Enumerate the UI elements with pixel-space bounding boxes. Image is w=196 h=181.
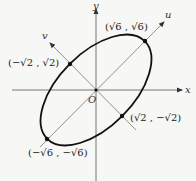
point-label-p3: (√2 , −√2): [130, 113, 181, 123]
point-dot-p1: [143, 39, 147, 43]
origin-dot: [94, 88, 97, 91]
x-axis-label: x: [185, 85, 191, 95]
origin-label: O: [88, 95, 96, 105]
v-axis-label: v: [42, 31, 48, 41]
point-dot-p3: [120, 114, 124, 118]
point-dot-p4: [45, 137, 49, 141]
point-label-p2: (−√2 , √2): [8, 58, 59, 68]
y-axis-label: y: [93, 1, 99, 11]
u-axis-label: u: [165, 10, 171, 20]
ellipse-diagram: y x u v O (√6 , √6) (−√2 , √2) (√2 , −√2…: [0, 0, 196, 181]
point-label-p4: (−√6 , −√6): [28, 148, 88, 158]
point-label-p1: (√6 , √6): [105, 22, 148, 32]
point-dot-p2: [68, 62, 72, 66]
